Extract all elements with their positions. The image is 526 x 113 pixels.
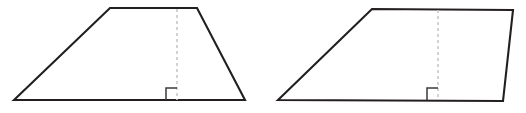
trapezoid-outline [14,8,245,100]
shape-trapezoid [14,8,245,100]
geometry-diagram-canvas [0,0,526,113]
parallelogram-outline [278,9,513,101]
shape-parallelogram [278,9,513,101]
geometry-diagram-svg [0,0,526,113]
